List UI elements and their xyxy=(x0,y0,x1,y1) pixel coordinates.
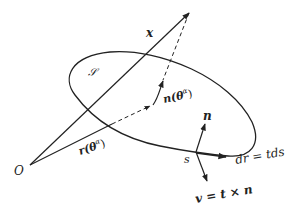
apex-dashed-line xyxy=(163,13,189,80)
normal-at-s-label: n xyxy=(203,109,212,123)
conormal-line xyxy=(196,152,207,181)
normal-at-s-line xyxy=(196,124,205,152)
x-vector-label: x xyxy=(145,26,154,40)
tangent-element-label: dr = tds xyxy=(234,145,285,167)
position-vector-dashed xyxy=(112,106,150,124)
normal-theta-label: n(θα) xyxy=(162,86,194,106)
conormal-label: v = t × n xyxy=(194,182,254,206)
surface-label: 𝒮 xyxy=(88,66,100,79)
origin-label: O xyxy=(14,164,24,178)
normal-theta-close: ) xyxy=(187,87,194,101)
diagram-canvas: O x 𝒮 n(θα) r(θα) n s dr = tds v = t × n xyxy=(0,0,292,215)
x-vector-line xyxy=(30,13,189,165)
position-close: ) xyxy=(99,137,107,151)
arc-point-label: s xyxy=(184,153,190,166)
